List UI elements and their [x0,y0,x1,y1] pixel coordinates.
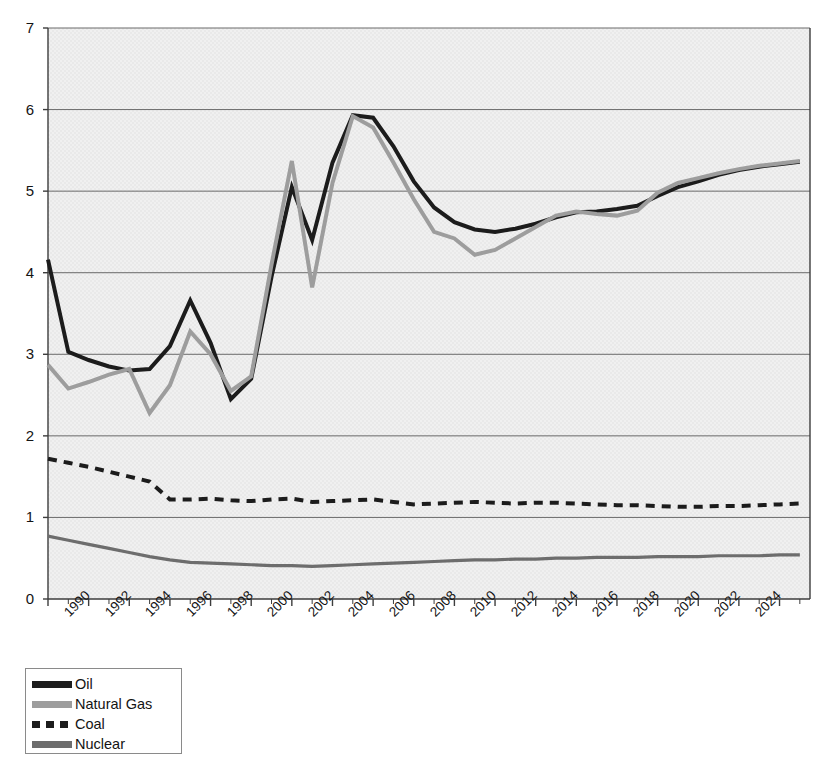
legend-label: Nuclear [75,737,125,752]
legend-label: Coal [75,717,105,732]
y-axis-tick-label: 6 [8,102,34,117]
legend-swatch-icon [32,701,72,708]
y-axis-tick-label: 1 [8,509,34,524]
y-axis-tick-label: 2 [8,428,34,443]
y-axis-tick-label: 5 [8,183,34,198]
y-axis-tick-label: 4 [8,265,34,280]
legend-item-natural-gas: Natural Gas [32,694,181,714]
y-axis-tick-label: 3 [8,346,34,361]
legend-swatch-icon [32,721,72,728]
line-chart: 01234567 1990199219941996199820002002200… [0,0,827,768]
y-axis-tick-label: 0 [8,591,34,606]
chart-legend: OilNatural GasCoalNuclear [25,668,182,754]
plot-texture [48,28,810,599]
legend-item-nuclear: Nuclear [32,734,181,754]
legend-item-oil: Oil [32,674,181,694]
legend-label: Natural Gas [75,697,152,712]
y-axis-tick-label: 7 [8,20,34,35]
plot-canvas [0,0,827,768]
legend-item-coal: Coal [32,714,181,734]
legend-swatch-icon [32,741,72,748]
legend-label: Oil [75,677,93,692]
legend-swatch-icon [32,681,72,688]
